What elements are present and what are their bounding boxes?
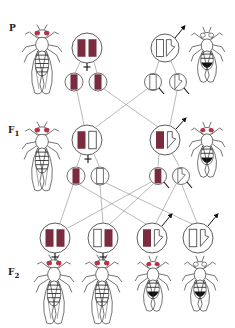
generation-label-f1: F1 — [8, 125, 19, 138]
p-female-genotype — [72, 33, 102, 63]
f1-male-gametes — [150, 168, 193, 189]
female-symbol-icon — [84, 63, 91, 71]
f2-offspring-4 — [182, 215, 218, 311]
f1-female-fly — [22, 122, 62, 191]
f2-offspring-3 — [135, 215, 171, 311]
f2-offspring-2 — [82, 223, 122, 324]
p-male-gametes — [145, 74, 190, 95]
generation-label-f2: F2 — [8, 267, 19, 280]
p-female-gametes — [65, 73, 107, 91]
f1-male-fly — [189, 122, 225, 177]
p-female-fly — [22, 25, 62, 94]
p-male-genotype — [151, 34, 179, 62]
male-symbol-icon — [162, 215, 171, 226]
f1-female-gametes — [67, 167, 109, 185]
male-symbol-icon — [176, 119, 185, 129]
f1-female-genotype — [72, 125, 102, 155]
f2-offspring-1 — [34, 223, 74, 324]
male-symbol-icon — [175, 27, 184, 38]
f1-male-genotype — [150, 125, 180, 155]
inheritance-diagram: P F1 F2 — [0, 0, 235, 328]
male-symbol-icon — [208, 215, 217, 226]
generation-label-p: P — [9, 23, 16, 33]
p-male-fly — [189, 27, 225, 82]
female-symbol-icon — [85, 155, 92, 163]
